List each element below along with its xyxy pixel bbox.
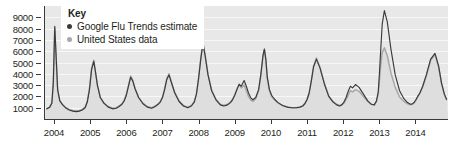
y-tick-label: 9000: [13, 13, 33, 22]
x-tick-mark: [379, 119, 380, 124]
y-tick-label: 2000: [13, 92, 33, 101]
x-axis: 2004200520062007200820092010201120122013…: [0, 119, 458, 149]
x-tick-label: 2007: [152, 127, 172, 138]
y-tick-mark: [36, 63, 41, 64]
y-tick-label: 3000: [13, 81, 33, 90]
legend-entries: Google Flu Trends estimateUnited States …: [67, 21, 197, 46]
legend: Key Google Flu Trends estimateUnited Sta…: [61, 5, 204, 49]
y-tick-mark: [36, 108, 41, 109]
y-tick-mark: [36, 29, 41, 30]
y-tick-label: 7000: [13, 35, 33, 44]
x-tick-mark: [415, 119, 416, 124]
y-axis: 100020003000400050006000700080009000: [0, 6, 41, 119]
x-tick-mark: [343, 119, 344, 124]
x-tick-label: 2012: [333, 127, 353, 138]
x-tick-label: 2004: [44, 127, 64, 138]
y-tick-mark: [36, 96, 41, 97]
y-tick-label: 4000: [13, 69, 33, 78]
x-tick-label: 2014: [405, 127, 425, 138]
x-tick-mark: [235, 119, 236, 124]
y-tick-mark: [36, 85, 41, 86]
x-tick-label: 2011: [297, 127, 317, 138]
y-tick-mark: [36, 17, 41, 18]
x-tick-mark: [54, 119, 55, 124]
flu-trends-chart-figure: 100020003000400050006000700080009000 200…: [0, 0, 458, 157]
x-tick-label: 2010: [261, 127, 281, 138]
legend-title: Key: [68, 8, 197, 20]
y-tick-mark: [36, 74, 41, 75]
x-tick-label: 2009: [225, 127, 245, 138]
x-tick-label: 2013: [369, 127, 389, 138]
x-tick-mark: [307, 119, 308, 124]
x-tick-label: 2005: [80, 127, 100, 138]
x-tick-mark: [162, 119, 163, 124]
legend-entry: United States data: [67, 34, 197, 46]
x-tick-mark: [126, 119, 127, 124]
legend-marker-dot-icon: [67, 37, 72, 42]
x-tick-mark: [90, 119, 91, 124]
x-tick-label: 2008: [188, 127, 208, 138]
y-tick-label: 1000: [13, 103, 33, 112]
x-tick-mark: [271, 119, 272, 124]
x-tick-label: 2006: [116, 127, 136, 138]
y-tick-label: 5000: [13, 58, 33, 67]
x-tick-mark: [199, 119, 200, 124]
legend-entry-label: United States data: [77, 34, 157, 46]
y-tick-mark: [36, 40, 41, 41]
y-tick-mark: [36, 51, 41, 52]
legend-entry: Google Flu Trends estimate: [67, 21, 197, 33]
y-tick-label: 6000: [13, 47, 33, 56]
legend-marker-dot-icon: [67, 24, 72, 29]
y-tick-label: 8000: [13, 24, 33, 33]
legend-entry-label: Google Flu Trends estimate: [77, 21, 197, 33]
